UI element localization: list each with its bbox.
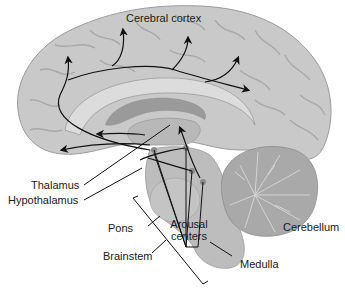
brain-diagram: Cerebral cortex Thalamus Hypothalamus Po… (0, 0, 345, 295)
label-medulla: Medulla (240, 258, 279, 270)
label-pons: Pons (108, 222, 133, 234)
label-arousal-centers: Arousal centers (166, 218, 212, 242)
brain-illustration (0, 0, 345, 295)
label-brainstem: Brainstem (103, 250, 153, 262)
label-cerebellum: Cerebellum (283, 221, 339, 233)
label-thalamus: Thalamus (31, 179, 79, 191)
label-arousal-centers-line1: Arousal (166, 218, 212, 230)
label-arousal-centers-line2: centers (166, 230, 212, 242)
label-cerebral-cortex: Cerebral cortex (126, 12, 201, 24)
label-hypothalamus: Hypothalamus (8, 194, 78, 206)
